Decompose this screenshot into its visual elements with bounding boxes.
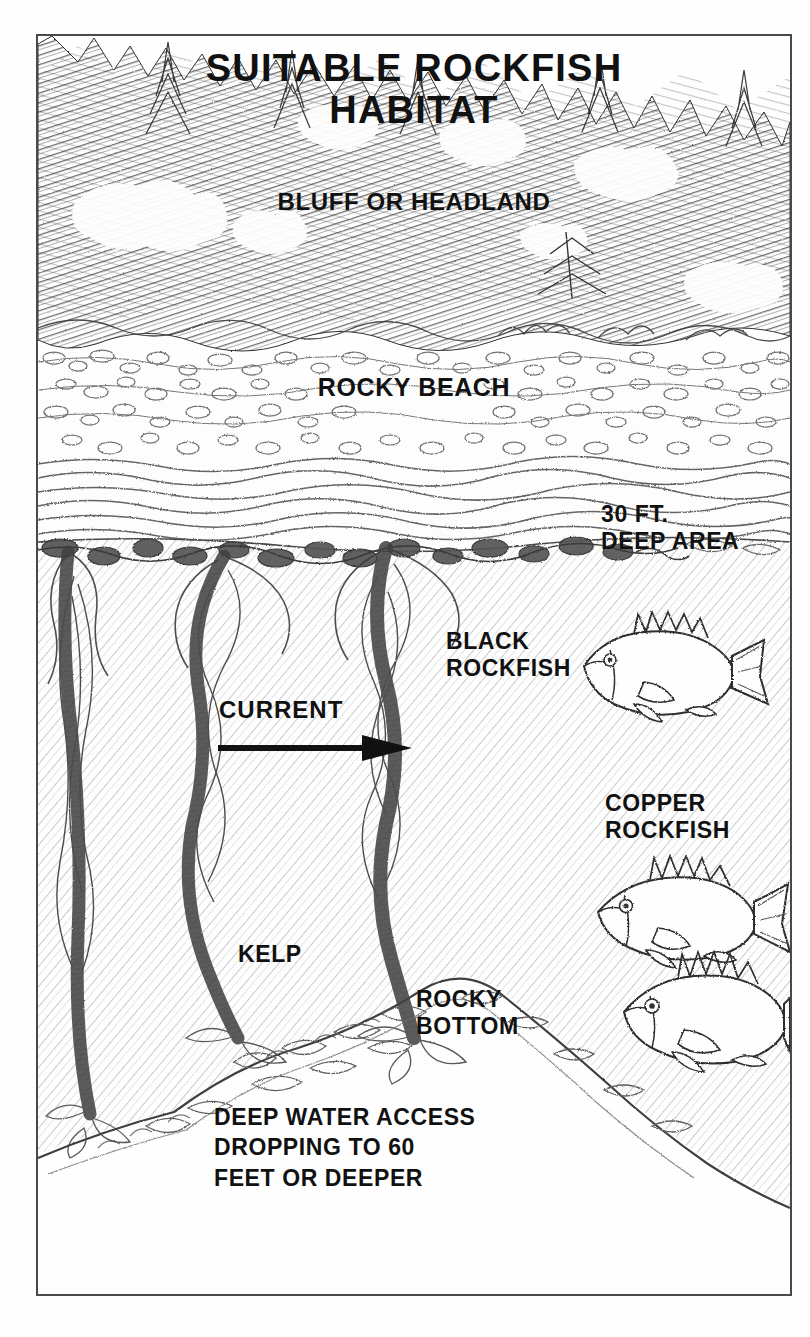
label-rocky-beach: ROCKY BEACH: [38, 373, 790, 403]
label-black-rockfish: BLACK ROCKFISH: [446, 628, 571, 682]
label-deep-water-access: DEEP WATER ACCESS DROPPING TO 60 FEET OR…: [214, 1102, 476, 1193]
label-rocky-bottom: ROCKY BOTTOM: [416, 986, 519, 1040]
label-kelp: KELP: [238, 941, 302, 968]
arrow-right-icon: [216, 733, 416, 763]
label-current: CURRENT: [219, 696, 343, 724]
label-30ft-deep-area: 30 FT. DEEP AREA: [601, 501, 739, 555]
page-title: SUITABLE ROCKFISH HABITAT: [38, 48, 790, 132]
label-bluff-or-headland: BLUFF OR HEADLAND: [38, 188, 790, 216]
illustration-page: SUITABLE ROCKFISH HABITAT BLUFF OR HEADL…: [0, 0, 810, 1337]
label-copper-rockfish: COPPER ROCKFISH: [605, 790, 730, 844]
illustration-frame: SUITABLE ROCKFISH HABITAT BLUFF OR HEADL…: [36, 34, 792, 1296]
